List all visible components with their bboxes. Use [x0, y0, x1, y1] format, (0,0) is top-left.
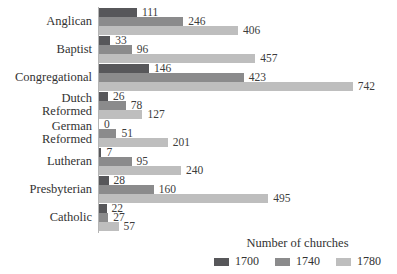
value-label: 7: [106, 147, 112, 157]
bar-line: 7: [99, 148, 203, 157]
value-label: 240: [186, 165, 203, 175]
bar-line: 160: [99, 185, 291, 194]
bar-line: 495: [99, 194, 291, 203]
value-label: 0: [104, 119, 110, 129]
bar-1780: [99, 166, 181, 175]
bar-line: 111: [99, 8, 260, 17]
bar-line: 457: [99, 54, 278, 63]
value-label: 57: [124, 221, 136, 231]
bar-1780: [99, 194, 268, 203]
value-label: 495: [273, 193, 290, 203]
bar-1780: [99, 222, 119, 231]
value-label: 160: [159, 184, 176, 194]
category-label: German Reformed: [0, 120, 99, 146]
churches-bar-chart: Anglican111246406Baptist3396457Congregat…: [0, 0, 397, 274]
category-row: Dutch Reformed2678127: [0, 91, 397, 119]
category-row: Lutheran795240: [0, 147, 397, 175]
bar-group: 2678127: [99, 92, 165, 119]
value-label: 457: [260, 53, 277, 63]
bar-1700: [99, 64, 149, 73]
bar-1740: [99, 101, 126, 110]
bar-1700: [99, 92, 108, 101]
value-label: 111: [142, 7, 158, 17]
bar-group: 111246406: [99, 8, 260, 35]
value-label: 146: [154, 63, 171, 73]
category-label: Baptist: [0, 43, 99, 56]
bar-1740: [99, 129, 116, 138]
bar-1700: [99, 36, 110, 45]
bar-group: 146423742: [99, 64, 375, 91]
bar-line: 146: [99, 64, 375, 73]
bar-line: 0: [99, 120, 190, 129]
category-label: Anglican: [0, 15, 99, 28]
bar-line: 742: [99, 82, 375, 91]
value-label: 33: [115, 35, 127, 45]
legend: Number of churches 170017401780: [205, 236, 390, 269]
bar-line: 33: [99, 36, 278, 45]
bar-1700: [99, 8, 137, 17]
value-label: 26: [113, 91, 125, 101]
category-row: Catholic222757: [0, 203, 397, 231]
bar-group: 051201: [99, 120, 190, 147]
legend-label: 1700: [235, 254, 259, 269]
value-label: 96: [137, 44, 149, 54]
category-label: Dutch Reformed: [0, 92, 99, 118]
bar-1700: [99, 148, 101, 157]
value-label: 201: [173, 137, 190, 147]
legend-swatch-icon: [214, 258, 229, 266]
bar-group: 28160495: [99, 176, 291, 203]
value-label: 406: [243, 25, 260, 35]
value-label: 742: [358, 81, 375, 91]
bar-group: 222757: [99, 204, 135, 231]
bar-1780: [99, 82, 353, 91]
legend-item-1700: 1700: [214, 254, 259, 269]
bar-1740: [99, 185, 154, 194]
category-label: Congregational: [0, 71, 99, 84]
bar-1740: [99, 157, 132, 166]
value-label: 28: [114, 175, 126, 185]
bar-line: 201: [99, 138, 190, 147]
bar-line: 246: [99, 17, 260, 26]
bar-1740: [99, 213, 108, 222]
legend-label: 1740: [296, 254, 320, 269]
legend-title: Number of churches: [205, 236, 390, 251]
value-label: 127: [147, 109, 164, 119]
bar-1740: [99, 45, 132, 54]
bar-1700: [99, 176, 109, 185]
category-row: German Reformed051201: [0, 119, 397, 147]
legend-item-1740: 1740: [275, 254, 320, 269]
legend-label: 1780: [357, 254, 381, 269]
legend-item-1780: 1780: [336, 254, 381, 269]
value-label: 51: [121, 128, 133, 138]
bar-1780: [99, 54, 255, 63]
bar-group: 795240: [99, 148, 203, 175]
category-row: Anglican111246406: [0, 7, 397, 35]
value-label: 95: [137, 156, 149, 166]
category-row: Presbyterian28160495: [0, 175, 397, 203]
category-label: Lutheran: [0, 155, 99, 168]
value-label: 78: [131, 100, 143, 110]
bar-1740: [99, 73, 244, 82]
category-row: Congregational146423742: [0, 63, 397, 91]
bar-line: 423: [99, 73, 375, 82]
value-label: 423: [249, 72, 266, 82]
bar-line: 57: [99, 222, 135, 231]
bar-1740: [99, 17, 183, 26]
value-label: 246: [188, 16, 205, 26]
bar-1700: [99, 204, 107, 213]
plot-area: Anglican111246406Baptist3396457Congregat…: [0, 7, 397, 231]
legend-swatch-icon: [275, 258, 290, 266]
legend-items: 170017401780: [205, 254, 390, 269]
category-label: Catholic: [0, 211, 99, 224]
bar-line: 96: [99, 45, 278, 54]
bar-line: 28: [99, 176, 291, 185]
legend-swatch-icon: [336, 258, 351, 266]
category-row: Baptist3396457: [0, 35, 397, 63]
category-label: Presbyterian: [0, 183, 99, 196]
bar-group: 3396457: [99, 36, 278, 63]
